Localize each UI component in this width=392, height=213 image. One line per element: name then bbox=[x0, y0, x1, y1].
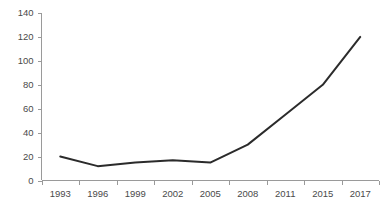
x-axis-tick-label: 2005 bbox=[200, 188, 221, 199]
x-axis-tick-label: 1993 bbox=[50, 188, 71, 199]
y-axis-tick-label: 100 bbox=[18, 55, 34, 66]
chart-canvas: 020406080100120140 199319961999200220052… bbox=[0, 0, 392, 213]
x-axis-tick-label: 2011 bbox=[275, 188, 295, 199]
y-axis-tick-label: 80 bbox=[23, 79, 34, 90]
x-axis-tick-label: 2015 bbox=[312, 188, 333, 199]
line-chart: 020406080100120140 199319961999200220052… bbox=[0, 0, 392, 213]
chart-background bbox=[0, 0, 392, 213]
y-axis-tick-label: 40 bbox=[23, 127, 34, 138]
x-axis-tick-label: 1999 bbox=[125, 188, 146, 199]
x-axis-tick-label: 2002 bbox=[162, 188, 183, 199]
y-axis-tick-label: 140 bbox=[18, 7, 34, 18]
x-axis-tick-label: 2008 bbox=[237, 188, 258, 199]
y-axis-tick-label: 0 bbox=[28, 175, 33, 186]
y-axis-tick-label: 120 bbox=[18, 31, 34, 42]
x-axis-tick-label: 2017 bbox=[350, 188, 371, 199]
y-axis-tick-label: 60 bbox=[23, 103, 34, 114]
y-axis-tick-label: 20 bbox=[23, 151, 34, 162]
x-axis-tick-label: 1996 bbox=[87, 188, 108, 199]
x-axis-tick-labels: 199319961999200220052008201120152017 bbox=[50, 188, 371, 199]
